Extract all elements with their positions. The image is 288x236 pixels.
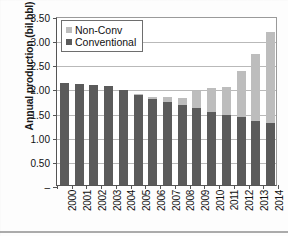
page-bottom-rule	[0, 231, 288, 233]
x-axis-tick-label: 2003	[112, 190, 123, 211]
x-axis-tick	[160, 185, 161, 189]
y-axis-tick-label: 2.00	[31, 85, 50, 96]
x-axis-tick	[278, 185, 279, 189]
bar-segment-non-conv	[148, 97, 157, 98]
x-axis-tick-label: 2012	[244, 190, 255, 211]
x-axis-tick	[219, 185, 220, 189]
y-axis-tick-label: –	[44, 182, 50, 193]
bar-segment-conventional	[148, 99, 157, 185]
chart-container: Annual production (bil.bbl) –0.501.001.5…	[0, 0, 288, 236]
legend-swatch-conventional	[66, 39, 72, 45]
bar-segment-non-conv	[207, 88, 216, 111]
bar-segment-conventional	[192, 108, 201, 185]
x-axis-tick-label: 2000	[67, 190, 78, 211]
legend-label-conventional: Conventional	[75, 36, 136, 48]
x-axis-tick	[249, 185, 250, 189]
bar-segment-non-conv	[163, 97, 172, 102]
y-axis-tick-label: 3.00	[31, 37, 50, 48]
bar-segment-conventional	[75, 84, 84, 185]
bar-segment-conventional	[178, 105, 187, 185]
x-axis-tick-label: 2005	[141, 190, 152, 211]
bar-segment-conventional	[251, 121, 260, 185]
x-axis-tick	[145, 185, 146, 189]
bar-segment-non-conv	[251, 54, 260, 121]
x-axis-tick-label: 2006	[156, 190, 167, 211]
bar-segment-non-conv	[192, 91, 201, 108]
x-axis-tick-label: 2007	[171, 190, 182, 211]
x-axis-tick	[190, 185, 191, 189]
x-axis-tick-label: 2010	[215, 190, 226, 211]
bar-segment-conventional	[266, 123, 275, 185]
bar-segment-non-conv	[266, 32, 275, 123]
x-axis-tick-label: 2014	[274, 190, 285, 211]
bar-segment-non-conv	[222, 87, 231, 115]
x-axis-tick	[204, 185, 205, 189]
x-axis-tick	[234, 185, 235, 189]
x-axis-tick	[57, 185, 58, 189]
x-axis-tick-label: 2004	[126, 190, 137, 211]
x-axis-tick-label: 2011	[229, 190, 240, 210]
bar-segment-conventional	[134, 95, 143, 185]
x-axis-tick-label: 2009	[200, 190, 211, 211]
x-axis-tick-label: 2013	[259, 190, 270, 211]
x-axis-tick-labels: 2000200120022003200420052006200720082009…	[56, 190, 277, 234]
x-axis-tick	[72, 185, 73, 189]
bar-segment-conventional	[237, 117, 246, 185]
x-axis-tick-label: 2002	[97, 190, 108, 211]
bar-segment-conventional	[60, 83, 69, 185]
y-axis-tick-label: 1.50	[31, 109, 50, 120]
x-axis-tick	[131, 185, 132, 189]
x-axis-tick-label: 2008	[185, 190, 196, 211]
bar-segment-conventional	[104, 86, 113, 185]
chart-legend: Non-Conv Conventional	[61, 20, 143, 52]
x-axis-tick-label: 2001	[82, 190, 93, 211]
y-axis-tick-label: 3.50	[31, 13, 50, 24]
bar-segment-conventional	[119, 90, 128, 185]
bar-segment-non-conv	[237, 71, 246, 118]
y-axis-tick-label: 0.50	[31, 157, 50, 168]
x-axis-tick	[175, 185, 176, 189]
x-axis-tick	[86, 185, 87, 189]
x-axis-tick	[263, 185, 264, 189]
legend-swatch-non-conv	[66, 27, 72, 33]
bar-segment-conventional	[207, 112, 216, 185]
legend-label-non-conv: Non-Conv	[75, 24, 122, 36]
bar-segment-conventional	[222, 115, 231, 185]
bar-segment-conventional	[89, 85, 98, 185]
x-axis-tick	[101, 185, 102, 189]
bar-segment-conventional	[163, 102, 172, 185]
x-axis-tick	[116, 185, 117, 189]
bar-segment-non-conv	[178, 98, 187, 105]
legend-item-conventional: Conventional	[66, 36, 136, 48]
legend-item-non-conv: Non-Conv	[66, 24, 136, 36]
y-axis-tick-label: 2.50	[31, 61, 50, 72]
y-axis-tick-label: 1.00	[31, 133, 50, 144]
